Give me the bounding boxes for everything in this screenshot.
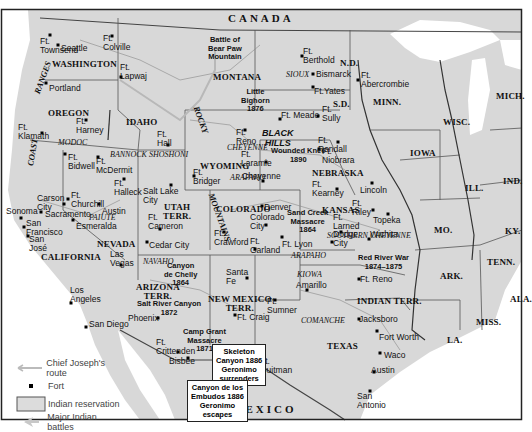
fort-dot-icon: [372, 209, 375, 212]
place-label: Salt Lake City: [143, 187, 178, 205]
fort-dot-icon: [64, 153, 67, 156]
place-label: Seattle: [61, 44, 87, 53]
state-label-nebraska: NEBRASKA: [312, 169, 364, 178]
battle-label: Battle of Bear Paw Mountain: [208, 36, 242, 62]
place-label: Los Angeles: [70, 286, 101, 304]
state-label-mich: MICH.: [496, 92, 525, 101]
legend-item-reservation: Indian reservation: [14, 395, 124, 413]
place-label: Ft. Colville: [103, 34, 130, 52]
battle-callout-box: Canyon de los Embudos 1886 Geronimo esca…: [187, 380, 248, 422]
place-label: Portland: [49, 84, 81, 93]
legend-label: Fort: [48, 381, 64, 391]
place-label: Ft. McDermit: [96, 157, 132, 175]
place-label: Ft. Bridger: [193, 168, 220, 186]
place-label: Ft. Berthold: [303, 47, 335, 65]
battle-label: Little Bighorn 1876: [241, 88, 270, 114]
place-label: Austin: [371, 366, 395, 375]
place-label: Ft. Klamath: [18, 123, 49, 141]
legend-label: Chief Joseph's route: [46, 358, 124, 378]
place-label: Bismarck: [316, 70, 351, 79]
place-label: Ft. Kearney: [312, 180, 344, 198]
arrow-line-icon: [14, 364, 46, 372]
fort-dot-icon: [357, 79, 360, 82]
place-label: Ft. Crawford: [214, 229, 248, 247]
place-label: Bisbee: [169, 357, 195, 366]
battle-label: Salt River Canyon 1872: [137, 300, 201, 317]
place-label: Ft. Halleck: [114, 179, 142, 197]
state-label-washington: WASHINGTON: [52, 60, 117, 69]
state-label-la: LA.: [447, 336, 462, 345]
tribe-label: KIOWA: [297, 270, 322, 279]
fort-dot-icon: [312, 73, 315, 76]
state-label-tenn: TENN.: [487, 258, 515, 267]
state-label-ark: ARK.: [440, 272, 463, 281]
place-label: Austin: [102, 207, 126, 216]
place-label: Ft. Cameron: [148, 213, 183, 231]
place-label: Dodge City: [333, 230, 358, 248]
place-label: Ft. Niobrara: [322, 147, 355, 165]
place-label: San Diego: [89, 320, 129, 329]
battle-label: Red River War 1874–1875: [358, 254, 409, 271]
place-label: Ft. Craig: [237, 313, 270, 322]
black-hills-label: BLACKHILLS: [262, 128, 294, 148]
state-label-montana: MONTANA: [213, 73, 261, 82]
place-label: Ft. Lapwaj: [120, 63, 147, 81]
place-label: Jacksboro: [359, 315, 398, 324]
battle-label: Sand Creek Massacre 1864: [287, 209, 328, 235]
state-label-ala: ALA.: [510, 295, 532, 304]
legend-item-battles: Major Indian battles: [14, 413, 124, 431]
state-label-ind: IND.: [503, 177, 523, 186]
battle-label: Canyon de Chelly 1864: [164, 262, 197, 288]
fort-dot-icon: [20, 217, 23, 220]
place-label: Las Vegas: [110, 250, 134, 268]
state-label-wisc: WISC.: [443, 118, 470, 127]
place-label: Ft. Hall: [157, 130, 172, 148]
place-label: Ft. Lyon: [282, 240, 312, 249]
place-label: Colorado City: [250, 213, 285, 231]
place-label: Ft. Reno: [360, 275, 393, 284]
place-label: Ft. Larned: [333, 213, 359, 231]
place-label: Sacramento: [45, 210, 91, 219]
state-label-miss: MISS.: [476, 318, 501, 327]
legend-item-route: Chief Joseph's route: [14, 359, 124, 377]
tribe-label: COMANCHE: [301, 316, 345, 325]
fort-dot-icon: [379, 352, 382, 355]
legend-label: Major Indian battles: [47, 412, 124, 432]
state-label-indian-terr: INDIAN TERR.: [357, 297, 422, 306]
place-label: Sonoma: [6, 207, 38, 216]
fort-dot-icon: [85, 326, 88, 329]
place-label: Waco: [384, 351, 405, 360]
place-label: Ft.Yates: [314, 87, 345, 96]
place-label: Wichita: [370, 230, 398, 239]
place-label: Cheyenne: [242, 172, 281, 181]
place-label: Ft. Sully: [322, 105, 340, 123]
state-label-texas: TEXAS: [327, 342, 358, 351]
place-label: Ft. Sumner: [267, 297, 297, 315]
state-label-mo: MO.: [434, 226, 452, 235]
place-label: Lincoln: [360, 186, 387, 195]
state-label-new-mexico: NEW MEXICO TERR.: [208, 295, 272, 313]
place-label: Topeka: [373, 216, 400, 225]
reservation-box-icon: [14, 396, 48, 412]
place-label: San José: [29, 235, 47, 253]
place-label: Ft. Abercrombie: [361, 71, 409, 89]
legend-label: Indian reservation: [48, 399, 120, 409]
place-label: Ft. Garland: [250, 237, 280, 255]
state-label-idaho: IDAHO: [126, 118, 158, 127]
tribe-label: MODOC: [58, 138, 87, 147]
state-label-ill: ILL.: [465, 184, 484, 193]
state-label-minn: MINN.: [373, 98, 401, 107]
state-label-nevada: NEVADA: [97, 240, 136, 249]
place-label: Santa Fe: [226, 268, 248, 286]
place-label: Cedar City: [149, 241, 189, 250]
battle-label: Wounded Knee 1890: [271, 147, 325, 164]
place-label: Ft. Churchill: [71, 191, 104, 209]
fort-dot-icon: [14, 382, 48, 390]
tribe-label: ARAPAHO: [291, 251, 326, 260]
place-label: Ft. Harney: [76, 117, 103, 135]
country-label-canada: CANADA: [228, 14, 294, 23]
battle-arrow-icon: [14, 416, 47, 428]
place-label: San Antonio: [357, 392, 386, 410]
place-label: Ft. Laramie: [241, 150, 272, 168]
tribe-label: SIOUX: [286, 70, 309, 79]
